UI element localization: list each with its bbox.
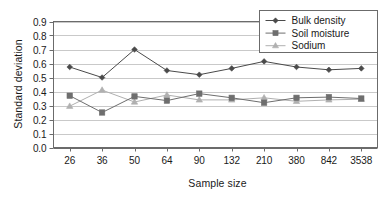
plot-area: Bulk densitySoil moistureSodium <box>0 0 386 197</box>
data-point <box>294 95 299 100</box>
data-point <box>359 66 365 72</box>
data-point <box>164 68 170 74</box>
series-line <box>70 94 362 113</box>
data-point <box>197 72 203 78</box>
data-point <box>132 94 137 99</box>
legend-marker <box>273 31 278 36</box>
legend-label: Bulk density <box>292 15 346 26</box>
data-point <box>359 96 364 101</box>
data-point <box>67 64 73 70</box>
data-point <box>99 87 105 93</box>
data-point <box>229 95 234 100</box>
data-point <box>67 103 73 109</box>
data-point <box>326 67 332 73</box>
data-point <box>67 93 72 98</box>
data-point <box>294 64 300 70</box>
data-point <box>261 94 267 100</box>
data-point <box>229 66 235 72</box>
chart-figure: Standard deviation Sample size 0.00.10.2… <box>0 0 386 197</box>
legend: Bulk densitySoil moistureSodium <box>260 11 378 53</box>
data-point <box>261 59 267 65</box>
data-point <box>164 98 169 103</box>
data-point <box>326 94 331 99</box>
legend-label: Soil moisture <box>292 28 350 39</box>
data-point <box>261 100 266 105</box>
data-point <box>197 91 202 96</box>
data-point <box>99 110 104 115</box>
series-line <box>70 50 362 78</box>
series-soil-moisture <box>67 91 364 115</box>
legend-label: Sodium <box>292 40 326 51</box>
